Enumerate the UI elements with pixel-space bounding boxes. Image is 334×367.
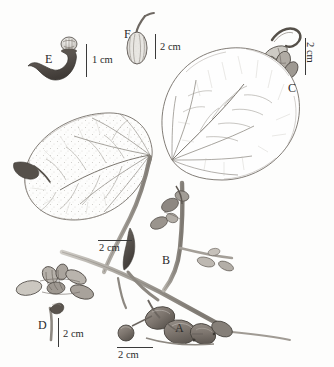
scale-label-c: 2 cm — [305, 42, 316, 63]
label-C: C — [288, 82, 296, 94]
scale-bar-e — [86, 44, 87, 77]
label-F: F — [124, 28, 131, 40]
upper-cordate-leaf — [162, 48, 300, 180]
lower-cordate-leaf — [25, 113, 153, 220]
scale-label-d: 2 cm — [63, 329, 84, 340]
scale-label-leaf: 2 cm — [99, 243, 120, 254]
scale-bar-leaf — [98, 240, 132, 241]
scale-label-e: 1 cm — [92, 55, 113, 66]
label-A: A — [175, 322, 184, 334]
scale-label-f: 2 cm — [160, 42, 181, 53]
detail-F-fruit — [127, 13, 154, 64]
botanical-plate: A B C D E F 1 cm 2 cm 2 cm 2 cm 2 cm 2 c… — [0, 0, 334, 367]
label-B: B — [162, 254, 170, 266]
label-E: E — [45, 53, 52, 65]
detail-D-organ — [50, 303, 64, 340]
scale-label-a: 2 cm — [118, 350, 139, 361]
detail-E-organ — [28, 37, 77, 80]
unlabeled-bud-cluster — [15, 263, 96, 302]
label-D: D — [38, 319, 47, 331]
scale-bar-d — [58, 318, 59, 347]
scale-bar-a — [117, 347, 153, 348]
scale-bar-f — [155, 34, 156, 59]
